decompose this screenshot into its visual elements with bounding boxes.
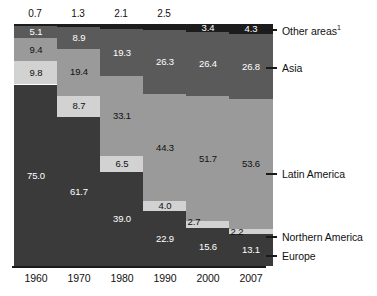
- segment-value: 4.3: [245, 24, 258, 34]
- top-value-1960: 0.7: [14, 8, 56, 19]
- top-value-1980: 2.1: [100, 8, 142, 19]
- segment-value: 22.9: [156, 234, 174, 244]
- segment-europe-1980: 39.0: [100, 172, 144, 266]
- segment-value: 19.3: [113, 48, 131, 58]
- segment-asia-1990: 26.3: [143, 30, 187, 94]
- x-tick-2000: 2000: [186, 272, 230, 284]
- segment-value: 19.4: [70, 67, 88, 77]
- segment-value: 4.0: [159, 201, 172, 211]
- bar-column-1990[interactable]: 26.3 44.3 4.0 22.9: [143, 24, 187, 266]
- leader-line-icon: [266, 67, 277, 69]
- bar-column-1970[interactable]: 8.9 19.4 8.7 61.7: [57, 24, 101, 266]
- x-axis-line: [12, 266, 266, 268]
- segment-north-1990: 4.0: [143, 201, 187, 211]
- leader-line-icon: [266, 236, 277, 238]
- segment-latin-1970: 19.4: [57, 49, 101, 96]
- segment-value: 8.9: [73, 33, 86, 43]
- legend-item-northern-america[interactable]: Northern America: [266, 231, 363, 243]
- legend-item-europe[interactable]: Europe: [266, 250, 316, 262]
- bar-column-1980[interactable]: 19.3 33.1 6.5 39.0: [100, 24, 144, 266]
- top-value-1990: 2.5: [143, 8, 185, 19]
- segment-value: 61.7: [70, 187, 88, 197]
- segment-asia-1980: 19.3: [100, 29, 144, 76]
- segment-value: 53.6: [242, 159, 260, 169]
- bar-column-1960[interactable]: 5.1 9.4 9.8 75.0: [14, 24, 58, 266]
- top-value-1970: 1.3: [57, 8, 99, 19]
- segment-value: 9.4: [30, 45, 43, 55]
- segment-value: 5.1: [30, 27, 43, 37]
- segment-latin-1990: 44.3: [143, 94, 187, 201]
- legend-item-latin-america[interactable]: Latin America: [266, 168, 345, 180]
- leader-line-icon: [266, 173, 277, 175]
- stacked-bar-chart: 0.7 1.3 2.1 2.5 5.1 9.4 9.8 75.0 8.9 19.…: [0, 0, 377, 296]
- segment-value: 8.7: [73, 101, 86, 111]
- x-tick-1970: 1970: [57, 272, 101, 284]
- legend-item-asia[interactable]: Asia: [266, 62, 302, 74]
- segment-value: 15.6: [199, 242, 217, 252]
- inbar-value-north-2007: 2.2: [215, 226, 259, 237]
- legend-label-asia: Asia: [282, 62, 302, 74]
- legend-label-northern-america: Northern America: [282, 231, 363, 243]
- segment-value: 51.7: [199, 154, 217, 164]
- footnote-marker: 1: [337, 24, 341, 31]
- segment-value: 33.1: [113, 111, 131, 121]
- x-tick-2007: 2007: [229, 272, 273, 284]
- legend-label-latin-america: Latin America: [282, 168, 345, 180]
- legend-label-europe: Europe: [282, 250, 316, 262]
- segment-value: 44.3: [156, 143, 174, 153]
- segment-value: 26.3: [156, 57, 174, 67]
- inbar-value-north-2000: 2.7: [172, 216, 216, 227]
- segment-latin-1960: 9.4: [14, 38, 58, 61]
- leader-line-icon: [266, 29, 277, 31]
- segment-europe-1970: 61.7: [57, 117, 101, 266]
- segment-value: 26.8: [242, 62, 260, 72]
- segment-other-2000: 3.4: [186, 24, 230, 32]
- legend-label-other-areas: Other areas1: [282, 24, 341, 37]
- segment-latin-1980: 33.1: [100, 76, 144, 156]
- segment-asia-1970: 8.9: [57, 27, 101, 49]
- segment-latin-2007: 53.6: [229, 99, 273, 229]
- segment-north-1970: 8.7: [57, 96, 101, 117]
- segment-asia-2000: 26.4: [186, 32, 230, 96]
- segment-value: 9.8: [30, 68, 43, 78]
- segment-value: 75.0: [27, 171, 45, 181]
- leader-line-icon: [266, 255, 277, 257]
- segment-latin-2000: 51.7: [186, 96, 230, 221]
- segment-europe-1960: 75.0: [14, 85, 58, 267]
- segment-value: 6.5: [116, 159, 129, 169]
- segment-asia-1960: 5.1: [14, 26, 58, 38]
- segment-value: 3.4: [202, 24, 215, 32]
- x-tick-1980: 1980: [100, 272, 144, 284]
- segment-value: 39.0: [113, 214, 131, 224]
- segment-north-1960: 9.8: [14, 61, 58, 85]
- segment-value: 13.1: [242, 245, 260, 255]
- segment-value: 26.4: [199, 59, 217, 69]
- segment-north-1980: 6.5: [100, 156, 144, 172]
- x-tick-1990: 1990: [143, 272, 187, 284]
- legend-item-other-areas[interactable]: Other areas1: [266, 24, 341, 36]
- x-tick-1960: 1960: [14, 272, 58, 284]
